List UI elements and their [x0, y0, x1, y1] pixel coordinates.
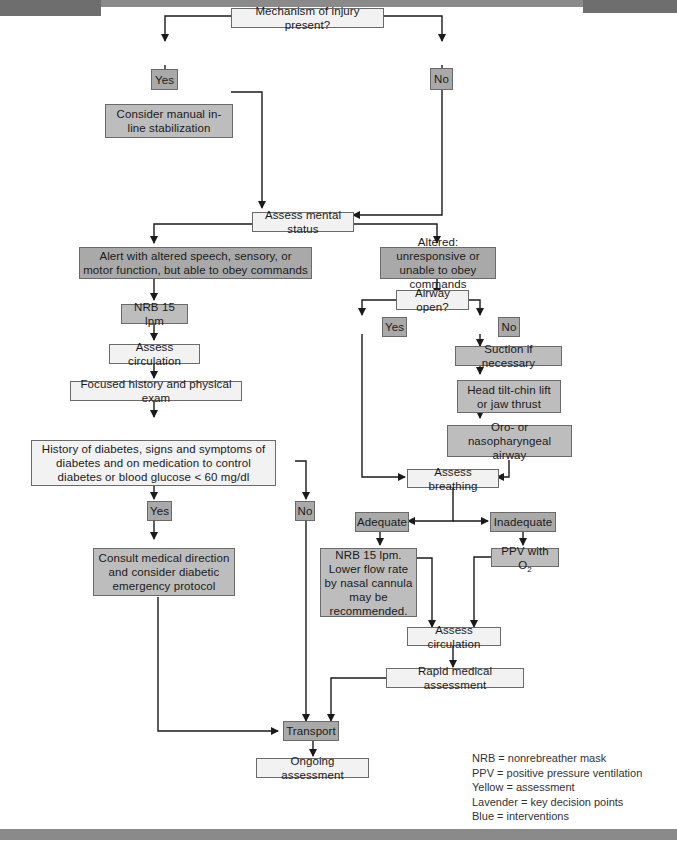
focused-history-node: Focused history and physical exam: [70, 381, 242, 401]
legend: NRB = nonrebreather mask PPV = positive …: [472, 751, 642, 824]
node-text: Assess circulation: [113, 340, 196, 368]
node-text: Ongoing assessment: [260, 754, 365, 782]
moi-yes-node: Yes: [151, 69, 178, 90]
adequate-node: Adequate: [355, 512, 409, 532]
node-text: Inadequate: [494, 515, 553, 529]
diabetes-no-node: No: [295, 501, 315, 521]
node-text: Oro- or nasopharyngeal airway: [451, 420, 568, 462]
diabetes-yes-node: Yes: [147, 501, 172, 521]
diabetes-question-node: History of diabetes, signs and symptoms …: [31, 440, 276, 486]
assess-mental-status-node: Assess mental status: [252, 212, 354, 232]
ppv-subscript: 2: [527, 565, 532, 574]
connector-lines: [0, 0, 677, 846]
transport-node: Transport: [283, 721, 339, 741]
alert-altered-node: Alert with altered speech, sensory, or m…: [79, 247, 312, 279]
node-text: Focused history and physical exam: [74, 377, 238, 405]
node-text: PPV with O2: [495, 544, 555, 572]
node-text: Mechanism of injury present?: [235, 4, 380, 32]
node-text: Head tilt-chin lift or jaw thrust: [461, 383, 557, 411]
nrb-15-lpm-node: NRB 15 lpm: [121, 304, 188, 324]
nrb-lower-flow-node: NRB 15 lpm. Lower flow rate by nasal can…: [320, 548, 417, 617]
altered-unresponsive-node: Altered: unresponsive or unable to obey …: [380, 247, 496, 279]
node-text: Assess breathing: [411, 465, 495, 493]
node-text: Consider manual in-line stabilization: [109, 107, 229, 135]
rapid-medical-assessment-node: Rapid medical assessment: [386, 668, 524, 688]
mechanism-of-injury-node: Mechanism of injury present?: [231, 8, 384, 28]
node-text: Alert with altered speech, sensory, or m…: [83, 249, 308, 277]
node-text: Assess mental status: [256, 208, 350, 236]
node-text: NRB 15 lpm: [125, 300, 184, 328]
node-text: Adequate: [357, 515, 407, 529]
airway-no-node: No: [498, 317, 520, 337]
moi-no-node: No: [430, 68, 453, 90]
node-text: History of diabetes, signs and symptoms …: [35, 442, 272, 484]
node-text: No: [434, 72, 449, 86]
head-tilt-node: Head tilt-chin lift or jaw thrust: [457, 380, 561, 413]
node-text: Suction if necessary: [459, 342, 558, 370]
ongoing-assessment-node: Ongoing assessment: [256, 758, 369, 778]
node-text: Yes: [150, 504, 169, 518]
inadequate-node: Inadequate: [490, 512, 556, 532]
consult-medical-direction-node: Consult medical direction and consider d…: [93, 548, 235, 596]
manual-stabilization-node: Consider manual in-line stabilization: [105, 104, 233, 138]
node-text: Yes: [155, 73, 174, 87]
node-text: Assess circulation: [411, 623, 497, 651]
opa-npa-node: Oro- or nasopharyngeal airway: [447, 425, 572, 457]
node-text: NRB 15 lpm. Lower flow rate by nasal can…: [324, 548, 413, 618]
node-text: Consult medical direction and consider d…: [97, 551, 231, 593]
node-text: Airway open?: [400, 286, 465, 314]
node-text: Yes: [385, 320, 404, 334]
ppv-with-o2-node: PPV with O2: [491, 548, 559, 567]
legend-item: Lavender = key decision points: [472, 795, 642, 810]
airway-open-node: Airway open?: [396, 290, 469, 310]
legend-item: PPV = positive pressure ventilation: [472, 766, 642, 781]
suction-node: Suction if necessary: [455, 346, 562, 366]
assess-circulation-right-node: Assess circulation: [407, 627, 501, 646]
ppv-label: PPV with O: [501, 545, 548, 571]
legend-item: Blue = interventions: [472, 809, 642, 824]
node-text: Transport: [286, 724, 336, 738]
node-text: No: [298, 504, 313, 518]
legend-item: Yellow = assessment: [472, 780, 642, 795]
node-text: Altered: unresponsive or unable to obey …: [384, 235, 492, 291]
assess-breathing-node: Assess breathing: [407, 469, 499, 488]
node-text: No: [502, 320, 517, 334]
legend-item: NRB = nonrebreather mask: [472, 751, 642, 766]
airway-yes-node: Yes: [382, 317, 407, 337]
node-text: Rapid medical assessment: [390, 664, 520, 692]
assess-circulation-left-node: Assess circulation: [109, 344, 200, 364]
